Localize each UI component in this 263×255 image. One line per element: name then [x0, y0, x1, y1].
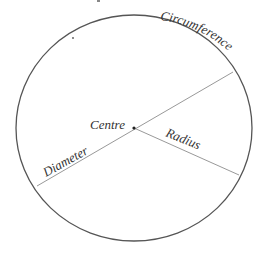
circle-diagram: Circumference Centre Radius Diameter	[0, 0, 263, 255]
cropped-text-fragment	[97, 0, 100, 2]
diameter-label: Diameter	[39, 142, 91, 180]
circumference-label: Circumference	[160, 8, 237, 53]
centre-label: Centre	[90, 117, 125, 132]
centre-point	[132, 126, 135, 129]
stray-dot	[72, 37, 74, 39]
radius-label: Radius	[163, 124, 203, 152]
